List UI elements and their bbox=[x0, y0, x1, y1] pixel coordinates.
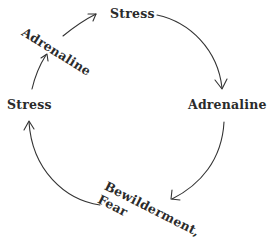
arrow-bewilderment-to-stress bbox=[24, 121, 100, 205]
arrow-adrenaline-to-bewilderment bbox=[171, 122, 224, 200]
node-stress-left: Stress bbox=[7, 99, 52, 112]
arrow-adrenaline-to-stress-top bbox=[63, 14, 96, 36]
arrow-stress-to-adrenaline-upper bbox=[32, 54, 48, 89]
arrow-stress-to-adrenaline bbox=[157, 15, 227, 89]
stress-cycle-diagram: Stress Adrenaline Bewilderment, Fear Str… bbox=[0, 0, 267, 238]
node-adrenaline-right: Adrenaline bbox=[188, 99, 267, 112]
node-stress-top: Stress bbox=[110, 8, 155, 21]
